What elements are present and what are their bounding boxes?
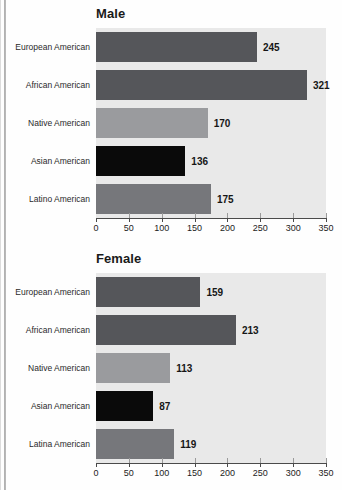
bar-value-label: 321 — [313, 80, 330, 91]
tick-label: 250 — [253, 223, 268, 233]
tick-mark — [260, 463, 261, 467]
tick-mark — [96, 218, 97, 222]
tick-mark — [227, 463, 228, 467]
tick-label: 100 — [154, 223, 169, 233]
tick-label: 0 — [93, 468, 98, 478]
page-edge-binding — [4, 0, 6, 490]
bar: Asian American136 — [96, 146, 185, 176]
bar-row: Latino American175 — [96, 180, 326, 218]
tick-label: 250 — [253, 468, 268, 478]
bar-value-label: 159 — [206, 287, 223, 298]
tick-mark — [96, 463, 97, 467]
bar-value-label: 245 — [263, 42, 280, 53]
tick-label: 50 — [124, 223, 134, 233]
bar-rows-male: European American245African American321N… — [96, 28, 326, 218]
bar-row: African American213 — [96, 311, 326, 349]
x-axis-ticks-female: 050100150200250300350 — [96, 463, 326, 483]
category-label: African American — [0, 325, 90, 335]
bar: African American213 — [96, 315, 236, 345]
category-label: Latino American — [0, 194, 90, 204]
tick-mark — [162, 463, 163, 467]
category-label: Native American — [0, 118, 90, 128]
x-axis-ticks-male: 050100150200250300350 — [96, 218, 326, 238]
category-label: Asian American — [0, 156, 90, 166]
bar-row: Native American170 — [96, 104, 326, 142]
bar-value-label: 170 — [214, 118, 231, 129]
plot-area-female: European American159African American213N… — [96, 273, 326, 463]
tick-label: 200 — [220, 223, 235, 233]
tick-label: 50 — [124, 468, 134, 478]
bar-value-label: 213 — [242, 325, 259, 336]
tick-mark — [162, 218, 163, 222]
bar-value-label: 87 — [159, 401, 170, 412]
chart-title-female: Female — [96, 251, 141, 266]
category-label: Latina American — [0, 439, 90, 449]
tick-mark — [326, 463, 327, 467]
tick-mark — [293, 463, 294, 467]
tick-label: 150 — [187, 468, 202, 478]
bar-row: Native American113 — [96, 349, 326, 387]
bar: European American245 — [96, 32, 257, 62]
category-label: Native American — [0, 363, 90, 373]
tick-mark — [129, 463, 130, 467]
tick-mark — [227, 218, 228, 222]
tick-mark — [326, 218, 327, 222]
tick-label: 350 — [318, 223, 333, 233]
category-label: European American — [0, 287, 90, 297]
tick-mark — [129, 218, 130, 222]
bar-row: European American159 — [96, 273, 326, 311]
bar-row: European American245 — [96, 28, 326, 66]
tick-label: 300 — [286, 468, 301, 478]
bar: Latina American119 — [96, 429, 174, 459]
bar-value-label: 119 — [180, 439, 196, 450]
bar: Asian American87 — [96, 391, 153, 421]
page-edge-outer — [0, 0, 1, 490]
bar-row: Latina American119 — [96, 425, 326, 463]
bar-row: Asian American136 — [96, 142, 326, 180]
tick-label: 150 — [187, 223, 202, 233]
bar: Native American170 — [96, 108, 208, 138]
bar-row: African American321 — [96, 66, 326, 104]
bar: African American321 — [96, 70, 307, 100]
category-label: European American — [0, 42, 90, 52]
tick-mark — [260, 218, 261, 222]
tick-label: 200 — [220, 468, 235, 478]
bar: Latino American175 — [96, 184, 211, 214]
tick-mark — [195, 463, 196, 467]
bar-value-label: 113 — [176, 363, 192, 374]
bar: European American159 — [96, 277, 200, 307]
category-label: Asian American — [0, 401, 90, 411]
tick-label: 100 — [154, 468, 169, 478]
bar-row: Asian American87 — [96, 387, 326, 425]
bar-value-label: 175 — [217, 194, 234, 205]
category-label: African American — [0, 80, 90, 90]
tick-mark — [195, 218, 196, 222]
bar-rows-female: European American159African American213N… — [96, 273, 326, 463]
chart-title-male: Male — [96, 6, 125, 21]
tick-label: 300 — [286, 223, 301, 233]
tick-mark — [293, 218, 294, 222]
bar: Native American113 — [96, 353, 170, 383]
tick-label: 0 — [93, 223, 98, 233]
plot-area-male: European American245African American321N… — [96, 28, 326, 218]
tick-label: 350 — [318, 468, 333, 478]
bar-value-label: 136 — [191, 156, 208, 167]
